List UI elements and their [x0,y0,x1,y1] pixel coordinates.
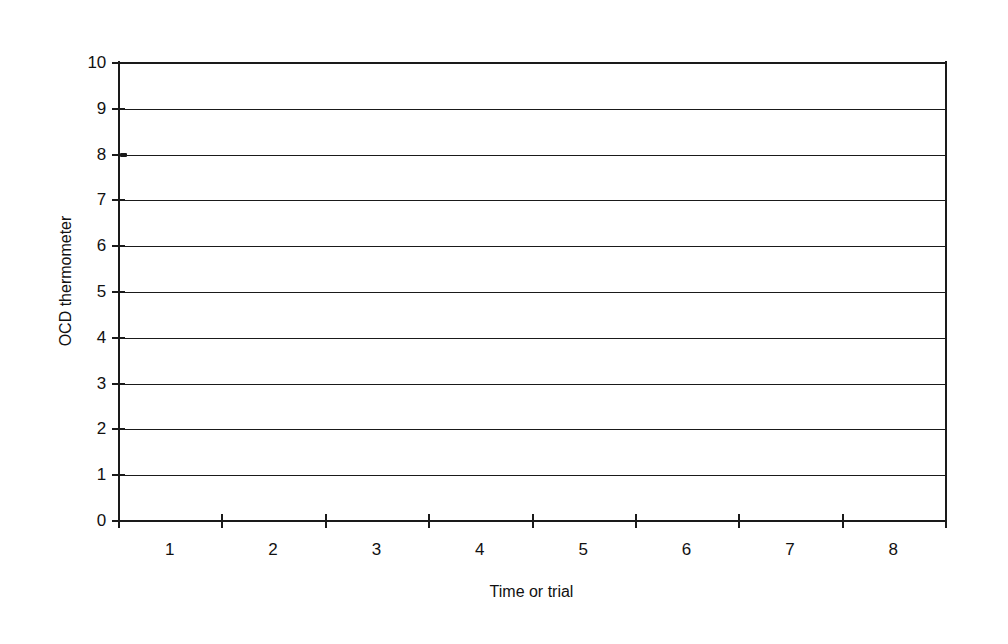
y-tick-mark [112,154,125,156]
y-tick-label: 3 [80,375,106,392]
y-tick-label: 0 [80,512,106,529]
y-tick-label: 2 [80,420,106,437]
y-tick-label: 8 [80,146,106,163]
y-tick-mark [112,245,125,247]
x-tick-mark [635,514,637,528]
x-axis-title: Time or trial [118,583,945,601]
y-tick-mark [112,337,125,339]
y-tick-label: 4 [80,329,106,346]
plot-top-border [118,62,947,64]
y-tick-label: 9 [80,100,106,117]
chart-figure: 109876543210 12345678 OCD thermometer Ti… [0,0,1008,644]
gridline [118,338,945,339]
x-tick-mark [532,514,534,528]
x-tick-mark [221,514,223,528]
y-tick-mark [112,428,125,430]
gridline [118,155,945,156]
y-tick-label: 1 [80,466,106,483]
x-tick-mark [945,514,947,528]
y-tick-mark [112,62,125,64]
x-tick-label: 5 [553,540,613,559]
x-tick-label: 3 [346,540,406,559]
y-tick-label: 6 [80,237,106,254]
x-tick-mark [325,514,327,528]
y-tick-mark [112,383,125,385]
plot-right-border [945,61,947,523]
y-tick-label: 7 [80,191,106,208]
gridline [118,475,945,476]
x-tick-label: 6 [657,540,717,559]
gridline [118,109,945,110]
gridline [118,429,945,430]
x-tick-mark [738,514,740,528]
y-tick-label: 5 [80,283,106,300]
y-tick-mark [112,291,125,293]
x-tick-label: 2 [243,540,303,559]
x-tick-mark [118,514,120,528]
plot-area [118,63,945,521]
x-tick-label: 1 [140,540,200,559]
y-tick-mark [112,108,125,110]
x-tick-mark [428,514,430,528]
gridline [118,246,945,247]
y-tick-label: 10 [80,54,106,71]
y-tick-mark [112,199,125,201]
x-tick-label: 8 [863,540,923,559]
gridline [118,384,945,385]
x-tick-label: 7 [760,540,820,559]
x-tick-mark [842,514,844,528]
gridline [118,292,945,293]
y-axis-title: OCD thermometer [57,171,75,391]
gridline [118,200,945,201]
y-tick-mark [112,474,125,476]
x-tick-label: 4 [450,540,510,559]
